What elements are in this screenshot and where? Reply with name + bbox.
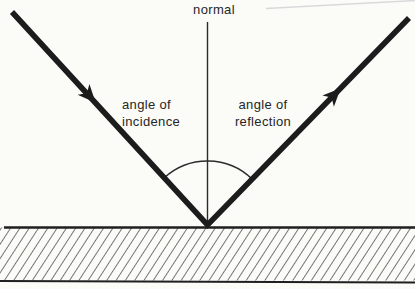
normal-label: normal: [190, 1, 238, 18]
diagram-canvas: [0, 0, 415, 289]
angle-of-incidence-label: angle of incidence: [122, 96, 180, 130]
page-edge-artifact: [266, 1, 415, 9]
angle-of-incidence-label-line1: angle of: [122, 96, 180, 113]
angle-of-reflection-label: angle of reflection: [222, 96, 304, 130]
angle-of-reflection-label-line1: angle of: [222, 96, 304, 113]
reflection-ray-diagram: normal angle of incidence angle of refle…: [0, 0, 415, 289]
angle-of-reflection-label-line2: reflection: [222, 113, 304, 130]
mirror-hatching: [0, 228, 415, 281]
light-ray: [12, 12, 409, 225]
mirror-bottom-edge: [0, 281, 415, 283]
angle-of-incidence-label-line2: incidence: [122, 113, 180, 130]
